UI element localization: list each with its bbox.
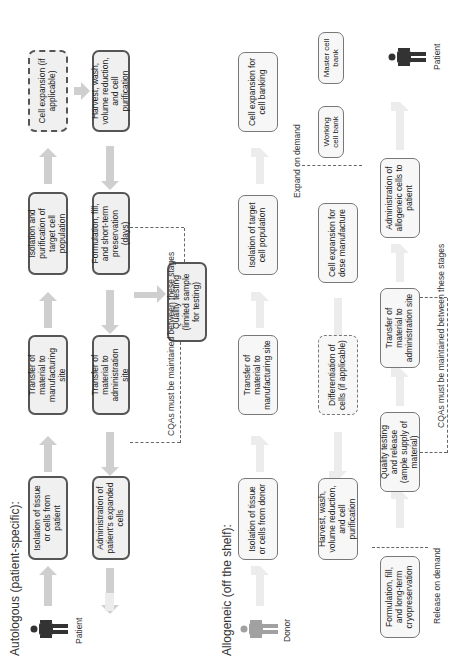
arrow bbox=[256, 156, 264, 184]
patient-icon bbox=[30, 618, 70, 640]
allo-patient-label: Patient bbox=[432, 44, 442, 70]
arrow bbox=[106, 432, 114, 468]
allo-cqa-bracket bbox=[447, 298, 448, 453]
allo-differentiation-box: Differentiation of cells (if applicable) bbox=[318, 335, 358, 415]
diagram-canvas: Autologous (patient-specific): Patient I… bbox=[0, 0, 459, 668]
allo-formulation-box: Formulation, fill, and long-term cryopre… bbox=[380, 556, 420, 638]
allo-transfer-admin-box: Transfer of material to administration s… bbox=[380, 288, 420, 368]
allo-cqa-note: CQAs must be maintained between these st… bbox=[436, 244, 446, 428]
cqa-bracket bbox=[180, 342, 181, 443]
release-on-demand-label: Release on demand bbox=[432, 548, 442, 624]
allo-isolation-tissue-box: Isolation of tissue or cells from donor bbox=[238, 478, 278, 560]
autologous-title: Autologous (patient-specific): bbox=[8, 501, 22, 656]
allo-administration-box: Administration of allogeneic cells to pa… bbox=[380, 158, 420, 238]
allogeneic-title: Allogeneic (off the shelf): bbox=[220, 524, 234, 656]
allo-cqa-bracket bbox=[420, 452, 447, 453]
arrow bbox=[334, 298, 342, 338]
arrow bbox=[396, 252, 404, 282]
arrow bbox=[396, 376, 404, 406]
auto-cqa-note: CQAs must be maintained between these st… bbox=[167, 252, 176, 436]
allo-cell-expansion-banking-box: Cell expansion for cell banking bbox=[238, 52, 278, 132]
arrow bbox=[134, 292, 158, 298]
release-divider bbox=[372, 547, 428, 548]
arrow bbox=[106, 290, 114, 326]
auto-harvest-box: Harvest, wash, volume reduction, and cel… bbox=[92, 50, 130, 132]
working-cell-bank-box: Working cell bank bbox=[318, 106, 344, 158]
auto-cell-expansion-box: Cell expansion (if applicable) bbox=[28, 50, 68, 132]
arrow bbox=[44, 300, 52, 328]
arrow bbox=[106, 146, 114, 182]
auto-isolation-purification-box: Isolation and purification of target cel… bbox=[28, 192, 68, 275]
arrow bbox=[256, 300, 264, 328]
arrow bbox=[396, 498, 404, 528]
cqa-bracket bbox=[130, 227, 184, 228]
allo-transfer-mfg-box: Transfer of material to manufacturing si… bbox=[238, 335, 278, 415]
arrow bbox=[44, 574, 52, 606]
arrow bbox=[334, 432, 342, 472]
auto-isolation-tissue-box: Isolation of tissue or cells from patien… bbox=[28, 476, 68, 560]
arrow bbox=[44, 444, 52, 472]
donor-label: Donor bbox=[282, 619, 292, 642]
expand-divider bbox=[302, 165, 362, 166]
allo-isolation-target-box: Isolation of target cell population bbox=[238, 195, 278, 275]
allo-cell-expansion-dose-box: Cell expansion for dose manufacture bbox=[318, 203, 358, 283]
autologous-patient-label: Patient bbox=[74, 618, 84, 644]
donor-icon bbox=[240, 618, 280, 640]
allo-quality-testing-box: Quality testing and release (ample suppl… bbox=[380, 412, 420, 492]
arrow bbox=[396, 110, 404, 150]
arrow bbox=[256, 574, 264, 606]
master-cell-bank-box: Master cell bank bbox=[318, 32, 344, 84]
cqa-bracket bbox=[184, 228, 185, 262]
cqa-bracket bbox=[130, 442, 180, 443]
expand-on-demand-label: Expand on demand bbox=[292, 124, 302, 198]
allo-harvest-box: Harvest, wash, volume reduction, and cel… bbox=[318, 478, 358, 560]
auto-formulation-box: Formulation, fill, and short-term preser… bbox=[92, 192, 130, 275]
auto-administration-box: Administration of patient's expanded cel… bbox=[92, 476, 130, 560]
arrow bbox=[74, 87, 82, 95]
allo-patient-icon bbox=[388, 46, 428, 68]
auto-transfer-mfg-box: Transfer of material to manufacturing si… bbox=[28, 335, 68, 415]
auto-transfer-admin-box: Transfer of material to administration s… bbox=[92, 335, 130, 415]
arrow bbox=[256, 444, 264, 472]
arrow bbox=[44, 156, 52, 184]
